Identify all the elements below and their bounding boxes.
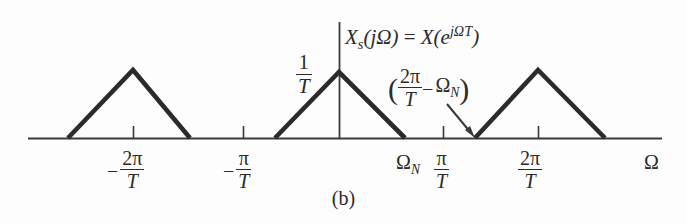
figure-caption: (b) <box>0 188 687 208</box>
alias-close-paren: ) <box>459 72 469 105</box>
alias-denominator: T <box>398 88 422 109</box>
transform-rhs: X(e <box>421 25 450 49</box>
omega-n-subscript: N <box>411 162 420 177</box>
x-axis-label: Ω <box>644 152 659 172</box>
omega-n-symbol: Ω <box>396 151 411 173</box>
transform-symbol: X <box>345 25 358 49</box>
tick-label-neg-pi-over-T: − π T <box>223 148 251 192</box>
alias-frequency-label: ( 2π T −ΩN) <box>388 66 469 110</box>
alias-omega-subscript: N <box>450 85 459 100</box>
figure-sampled-spectrum: 1 T Xs(jΩ) = X(ejΩT) ( 2π T −ΩN) − 2π T … <box>0 0 687 224</box>
alias-omega: Ω <box>435 74 450 96</box>
tick-numerator: 2π <box>518 148 542 170</box>
amplitude-value-label: 1 T <box>296 52 312 98</box>
transform-argument: (jΩ) <box>363 25 398 49</box>
tick-sign: − <box>107 161 118 181</box>
amplitude-numerator: 1 <box>296 52 312 75</box>
transform-rhs-exponent: jΩT <box>450 23 472 39</box>
tick-numerator: π <box>434 148 449 170</box>
tick-label-2pi-over-T: 2π T <box>518 148 542 192</box>
spectrum-replica-left <box>68 70 190 138</box>
transform-rhs-close: ) <box>472 25 479 49</box>
tick-numerator: 2π <box>120 148 144 170</box>
transform-equals: = <box>398 25 420 49</box>
alias-numerator: 2π <box>398 66 422 88</box>
tick-label-pi-over-T: π T <box>434 148 449 192</box>
amplitude-denominator: T <box>296 75 312 97</box>
spectrum-replica-right <box>475 70 605 138</box>
transform-expression-label: Xs(jΩ) = X(ejΩT) <box>345 24 479 51</box>
tick-label-neg-2pi-over-T: − 2π T <box>107 148 144 192</box>
tick-numerator: π <box>236 148 251 170</box>
tick-label-omega-n: ΩN <box>396 152 420 177</box>
tick-sign: − <box>223 161 234 181</box>
alias-minus: − <box>422 79 433 99</box>
alias-open-paren: ( <box>388 72 398 105</box>
